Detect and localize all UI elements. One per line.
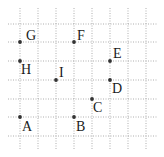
point-label: B: [76, 119, 85, 134]
point-dot: [108, 59, 112, 63]
point-label: G: [26, 28, 36, 43]
point-label: A: [22, 119, 33, 134]
point-g: G: [18, 28, 36, 44]
point-dot: [54, 78, 58, 82]
point-label: D: [112, 81, 122, 96]
point-dot: [18, 40, 22, 44]
point-label: C: [93, 100, 102, 115]
point-label: I: [59, 65, 64, 80]
point-label: F: [77, 28, 85, 43]
labeled-points: GFEHIDCAB: [18, 28, 122, 134]
point-label: E: [113, 46, 122, 61]
point-h: H: [18, 59, 31, 77]
point-dot: [72, 40, 76, 44]
point-i: I: [54, 65, 64, 82]
point-label: H: [21, 62, 31, 77]
grid-diagram: GFEHIDCAB: [0, 0, 164, 157]
